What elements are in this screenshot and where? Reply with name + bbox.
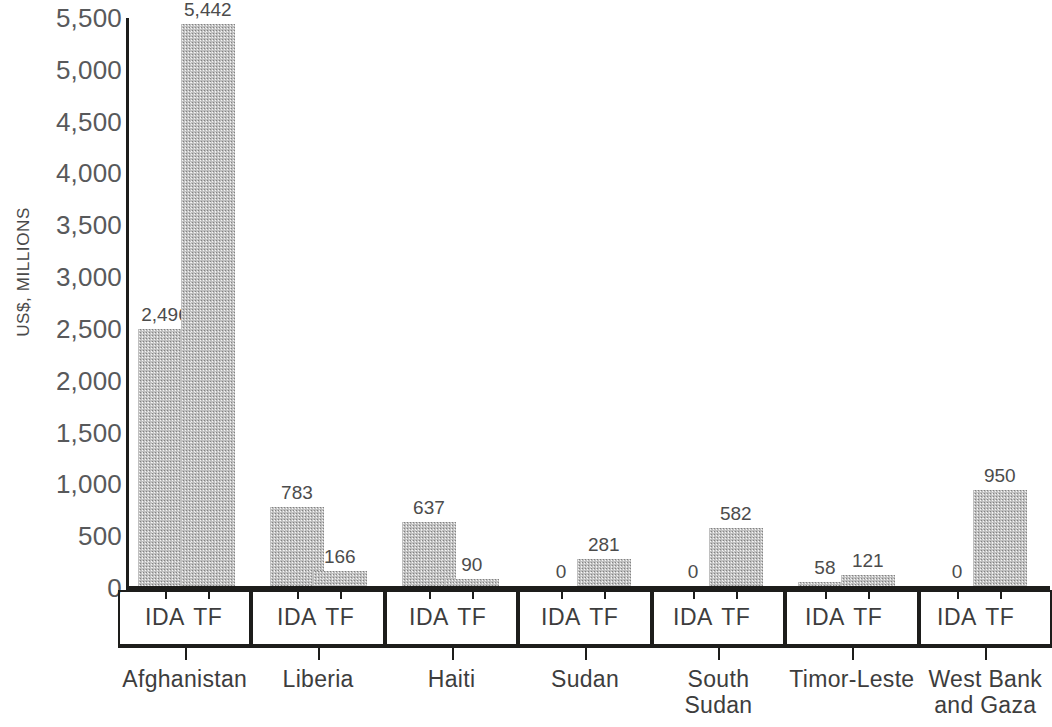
- y-tick-label: 5,000: [30, 57, 122, 83]
- subcategory-tick: [693, 588, 695, 599]
- y-tick-label: 1,000: [30, 471, 122, 497]
- subcategory-tick: [208, 588, 210, 599]
- subcategory-label-ida: IDA: [145, 604, 185, 631]
- bar-value-label: 0: [556, 561, 567, 583]
- subcategory-label-tf: TF: [457, 604, 486, 631]
- y-tick-label: 0: [30, 575, 122, 601]
- bar-value-label: 5,442: [184, 0, 232, 21]
- subcategory-tick: [736, 588, 738, 599]
- bar-value-label: 281: [588, 534, 620, 556]
- subcategory-tick: [604, 588, 606, 599]
- subcategory-tick: [561, 588, 563, 599]
- category-label: Sudan: [551, 666, 619, 692]
- bar-value-label: 166: [324, 546, 356, 568]
- y-tick-label: 4,000: [30, 160, 122, 186]
- subcategory-cell: [652, 590, 785, 646]
- subcategory-tick: [472, 588, 474, 599]
- category-tick: [185, 646, 187, 660]
- bar-south-sudan-tf: [709, 528, 763, 588]
- subcategory-tick: [340, 588, 342, 599]
- subcategory-tick: [165, 588, 167, 599]
- y-tick-label: 500: [30, 523, 122, 549]
- subcategory-label-tf: TF: [853, 604, 882, 631]
- bar-value-label: 90: [461, 554, 482, 576]
- y-tick-label: 1,500: [30, 420, 122, 446]
- subcategory-label-ida: IDA: [673, 604, 713, 631]
- subcategory-label-tf: TF: [721, 604, 750, 631]
- y-tick-label: 4,500: [30, 109, 122, 135]
- y-tick-label: 5,500: [30, 5, 122, 31]
- subcategory-label-ida: IDA: [409, 604, 449, 631]
- subcategory-label-tf: TF: [193, 604, 222, 631]
- bar-value-label: 582: [720, 503, 752, 525]
- subcategory-tick: [868, 588, 870, 599]
- subcategory-cell: [251, 590, 384, 646]
- subcategory-label-ida: IDA: [937, 604, 977, 631]
- bar-value-label: 783: [281, 482, 313, 504]
- category-label: Haiti: [428, 666, 476, 692]
- subcategory-label-ida: IDA: [277, 604, 317, 631]
- y-tick-label: 2,500: [30, 316, 122, 342]
- bar-sudan-tf: [577, 559, 631, 588]
- bar-value-label: 0: [688, 561, 699, 583]
- y-tick-label: 3,500: [30, 212, 122, 238]
- subcategory-tick: [825, 588, 827, 599]
- subcategory-cell: [518, 590, 651, 646]
- subcategory-tick: [957, 588, 959, 599]
- subcategory-tick: [429, 588, 431, 599]
- category-tick: [852, 646, 854, 660]
- category-label: Liberia: [283, 666, 354, 692]
- category-label: Timor-Leste: [789, 666, 914, 692]
- bar-afghanistan-tf: [181, 24, 235, 588]
- category-tick: [585, 646, 587, 660]
- subcategory-label-tf: TF: [985, 604, 1014, 631]
- y-tick-label: 3,000: [30, 264, 122, 290]
- plot-area: 2,4965,4427831666379002810582581210950: [126, 18, 1046, 588]
- y-tick-label: 2,000: [30, 368, 122, 394]
- category-label: West Bankand Gaza: [929, 666, 1043, 718]
- subcategory-label-tf: TF: [325, 604, 354, 631]
- bar-value-label: 58: [814, 557, 835, 579]
- subcategory-label-ida: IDA: [541, 604, 581, 631]
- subcategory-cell: [385, 590, 518, 646]
- category-tick: [985, 646, 987, 660]
- bar-chart: US$, MILLIONS 5,5005,0004,5004,0003,5003…: [0, 0, 1052, 727]
- category-label: SouthSudan: [684, 666, 752, 718]
- subcategory-band: IDATFIDATFIDATFIDATFIDATFIDATFIDATF: [118, 590, 1052, 646]
- bar-west-bank-and-gaza-tf: [973, 490, 1027, 588]
- category-label: Afghanistan: [122, 666, 247, 692]
- y-axis-tick-labels: 5,5005,0004,5004,0003,5003,0002,5002,000…: [0, 0, 122, 620]
- category-tick: [318, 646, 320, 660]
- bar-value-label: 0: [952, 561, 963, 583]
- bar-value-label: 950: [984, 465, 1016, 487]
- subcategory-label-tf: TF: [589, 604, 618, 631]
- bar-value-label: 121: [852, 550, 884, 572]
- subcategory-tick: [1000, 588, 1002, 599]
- subcategory-tick: [297, 588, 299, 599]
- category-tick: [718, 646, 720, 660]
- category-tick: [452, 646, 454, 660]
- bar-value-label: 637: [413, 497, 445, 519]
- subcategory-label-ida: IDA: [805, 604, 845, 631]
